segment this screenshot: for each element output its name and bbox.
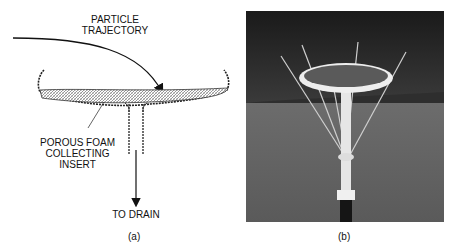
trajectory-arrow [13, 38, 162, 92]
to-drain-label: TO DRAIN [106, 209, 166, 220]
caption-a: (a) [128, 231, 140, 242]
porous-foam-label: POROUS FOAM COLLECTING INSERT [35, 137, 120, 170]
collector-diagram [13, 38, 229, 205]
collector-photo [246, 11, 444, 222]
caption-b: (b) [338, 231, 350, 242]
diagram-figure [0, 0, 455, 252]
particle-trajectory-label: PARTICLE TRAJECTORY [70, 14, 160, 36]
